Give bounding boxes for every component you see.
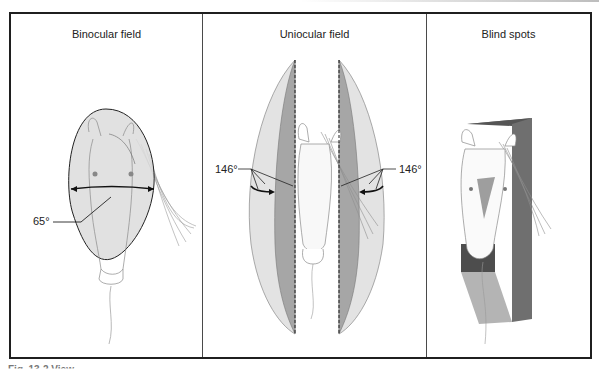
binocular-illustration	[11, 14, 202, 357]
blind-spots-illustration	[427, 14, 590, 357]
top-edge-shadow	[300, 0, 599, 2]
figure-frame: Binocular field	[9, 12, 592, 359]
binocular-angle-label: 65°	[33, 215, 50, 227]
uniocular-angle-label-left: 146°	[215, 163, 238, 175]
uniocular-angle-label-right: 146°	[399, 163, 422, 175]
panel-uniocular-field: Uniocular field	[203, 14, 426, 357]
uniocular-illustration	[203, 14, 426, 357]
panel-binocular-field: Binocular field	[11, 14, 202, 357]
panel-blind-spots: Blind spots	[427, 14, 590, 357]
figure-caption: Fig. 13-2 View...	[8, 364, 82, 370]
